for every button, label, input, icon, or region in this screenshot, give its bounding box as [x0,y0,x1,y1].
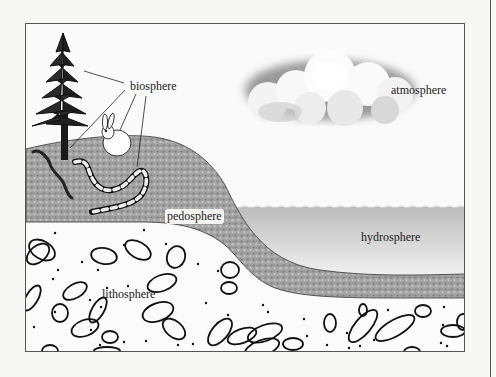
hydrosphere-label: hydrosphere [361,230,420,245]
diagram-canvas [0,0,496,377]
pedosphere-label: pedosphere [165,209,224,224]
lithosphere-label: lithosphere [102,287,155,302]
atmosphere-label: atmosphere [391,83,446,98]
biosphere-label: biosphere [130,79,177,94]
